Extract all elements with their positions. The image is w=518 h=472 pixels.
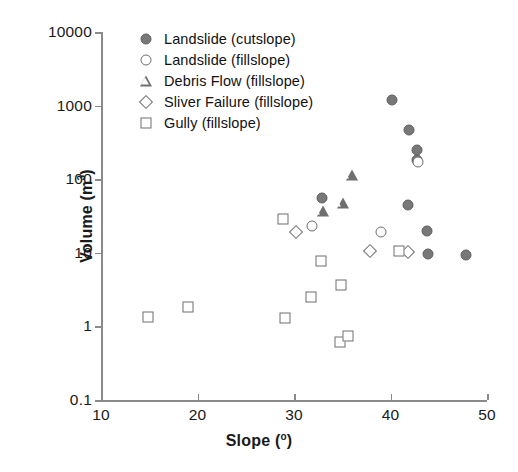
marker-square-open-icon: [143, 311, 154, 322]
marker-circle-filled-icon: [411, 144, 422, 155]
x-tick-mark: [487, 394, 489, 400]
y-axis-line: [101, 32, 103, 400]
data-point: [280, 313, 291, 324]
marker-square-open-icon: [141, 117, 152, 128]
legend-label: Gully (fillslope): [164, 115, 261, 131]
y-tick-mark: [95, 400, 101, 402]
data-point: [365, 246, 375, 256]
y-axis-title-superscript: 3: [76, 175, 87, 181]
legend-swatch: [137, 114, 155, 132]
marker-triangle-open-icon: [317, 205, 329, 216]
y-tick-label: 10000: [48, 23, 92, 41]
marker-circle-filled-icon: [423, 248, 434, 259]
x-tick-mark: [198, 394, 200, 400]
data-point: [317, 205, 329, 216]
x-tick-label: 40: [382, 406, 400, 424]
legend-swatch: [137, 72, 155, 90]
legend-entry: Debris Flow (fillslope): [137, 71, 313, 90]
data-point: [460, 250, 471, 261]
data-point: [394, 245, 405, 256]
x-tick-label: 30: [285, 406, 303, 424]
data-point: [402, 199, 413, 210]
marker-circle-filled-icon: [402, 199, 413, 210]
x-tick-mark: [391, 394, 393, 400]
data-point: [343, 331, 354, 342]
legend-swatch: [137, 30, 155, 48]
marker-square-open-icon: [316, 255, 327, 266]
data-point: [375, 227, 386, 238]
data-point: [387, 94, 398, 105]
data-point: [423, 248, 434, 259]
x-axis-title: Slope (o): [0, 431, 518, 450]
marker-circle-filled-icon: [460, 250, 471, 261]
y-axis-title-tail: ): [78, 169, 95, 175]
legend-entry: Landslide (fillslope): [137, 50, 313, 69]
data-point: [316, 193, 327, 204]
y-tick-label: 1: [83, 317, 92, 335]
chart-legend: Landslide (cutslope)Landslide (fillslope…: [137, 29, 313, 132]
legend-entry: Sliver Failure (fillslope): [137, 92, 313, 111]
legend-entry: Landslide (cutslope): [137, 29, 313, 48]
legend-label: Landslide (cutslope): [164, 31, 296, 47]
marker-circle-open-icon: [141, 54, 152, 65]
marker-circle-open-icon: [375, 227, 386, 238]
marker-circle-filled-icon: [422, 225, 433, 236]
legend-label: Landslide (fillslope): [164, 52, 290, 68]
y-tick-label: 1000: [57, 97, 92, 115]
legend-entry: Gully (fillslope): [137, 113, 313, 132]
marker-triangle-open-icon: [337, 197, 349, 208]
legend-swatch: [137, 51, 155, 69]
data-point: [411, 144, 422, 155]
marker-square-open-icon: [278, 213, 289, 224]
x-tick-label: 50: [478, 406, 496, 424]
legend-swatch: [137, 93, 155, 111]
y-axis-title: Volume (m3): [76, 169, 95, 263]
marker-diamond-open-icon: [289, 225, 303, 239]
marker-circle-filled-icon: [141, 33, 152, 44]
y-tick-mark: [95, 179, 101, 181]
x-tick-label: 20: [189, 406, 207, 424]
x-axis-title-text: Slope (: [226, 432, 281, 449]
data-point: [182, 301, 193, 312]
data-point: [412, 157, 423, 168]
marker-triangle-open-icon: [140, 75, 152, 86]
data-point: [346, 169, 358, 180]
marker-square-open-icon: [336, 280, 347, 291]
y-tick-mark: [95, 326, 101, 328]
marker-square-open-icon: [182, 301, 193, 312]
plot-area: 0.1110100100010000 1020304050 Landslide …: [101, 32, 487, 400]
y-tick-mark: [95, 32, 101, 34]
data-point: [422, 225, 433, 236]
x-tick-mark: [294, 394, 296, 400]
marker-circle-filled-icon: [403, 124, 414, 135]
marker-circle-filled-icon: [316, 193, 327, 204]
x-tick-label: 10: [92, 406, 110, 424]
marker-square-open-icon: [394, 245, 405, 256]
marker-circle-open-icon: [412, 157, 423, 168]
marker-diamond-open-icon: [139, 94, 153, 108]
data-point: [307, 221, 318, 232]
data-point: [291, 227, 301, 237]
x-axis-line: [101, 400, 487, 402]
x-tick-mark: [101, 394, 103, 400]
y-tick-mark: [95, 253, 101, 255]
data-point: [278, 213, 289, 224]
data-point: [337, 197, 349, 208]
marker-square-open-icon: [280, 313, 291, 324]
marker-circle-open-icon: [307, 221, 318, 232]
marker-square-open-icon: [306, 292, 317, 303]
data-point: [306, 292, 317, 303]
data-point: [336, 280, 347, 291]
legend-label: Sliver Failure (fillslope): [164, 94, 313, 110]
scatter-plot-figure: 0.1110100100010000 1020304050 Landslide …: [0, 0, 518, 472]
y-tick-label: 0.1: [70, 391, 92, 409]
marker-square-open-icon: [343, 331, 354, 342]
y-axis-title-text: Volume (m: [78, 180, 95, 262]
marker-triangle-open-icon: [346, 169, 358, 180]
y-tick-mark: [95, 106, 101, 108]
legend-label: Debris Flow (fillslope): [164, 73, 305, 89]
data-point: [316, 255, 327, 266]
data-point: [403, 124, 414, 135]
marker-circle-filled-icon: [387, 94, 398, 105]
x-axis-title-tail: ): [287, 432, 293, 449]
